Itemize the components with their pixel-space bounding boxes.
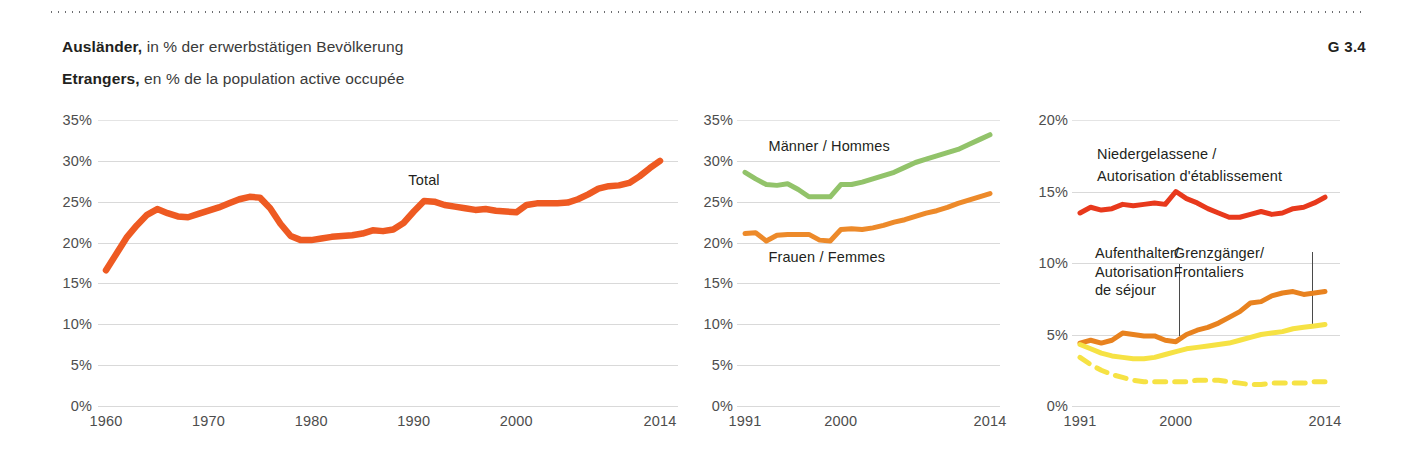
series-line	[1080, 357, 1325, 384]
series-annotation: Frontaliers	[1174, 262, 1244, 282]
figure-page: Ausländer, in % der erwerbstätigen Bevöl…	[0, 0, 1414, 465]
series-annotation: Aufenthalter/	[1095, 243, 1179, 263]
series-annotation: Autorisation d'établissement	[1097, 166, 1282, 186]
series-line	[1080, 192, 1325, 218]
series-annotation: Grenzgänger/	[1174, 243, 1264, 263]
series-annotation: Niedergelassene /	[1097, 144, 1216, 164]
series-annotation: Autorisation	[1095, 262, 1173, 282]
chart-by-permit: 20%15%10%5%0%199120002014Niedergelassene…	[990, 0, 1414, 465]
series-canvas	[0, 0, 1414, 465]
series-annotation: de séjour	[1095, 280, 1156, 300]
